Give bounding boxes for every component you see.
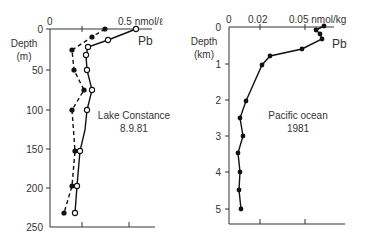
- element-label: Pb: [332, 37, 347, 51]
- chart-date: 1981: [287, 123, 310, 134]
- y-tick-0: 0: [215, 22, 221, 33]
- chart-date: 8.9.81: [120, 123, 148, 134]
- x-unit-label: 0.5 nmol/ℓ: [118, 16, 163, 27]
- y-tick-250: 250: [26, 222, 43, 233]
- y-tick-50: 50: [32, 65, 44, 76]
- x-tick-0: 0: [47, 16, 53, 27]
- x-tick-0: 0: [226, 14, 232, 25]
- chart-title: Lake Constance: [98, 110, 171, 121]
- depth-unit: (km): [194, 49, 214, 60]
- y-tick-5: 5: [215, 204, 221, 215]
- x-tick-002: 0.02: [248, 14, 268, 25]
- open-series-markers: [72, 26, 138, 215]
- depth-unit: (m): [17, 51, 32, 62]
- y-tick-4: 4: [215, 167, 221, 178]
- y-tick-2: 2: [215, 95, 221, 106]
- y-tick-150: 150: [26, 144, 43, 155]
- y-tick-0: 0: [37, 24, 43, 35]
- depth-label: Depth: [191, 36, 218, 47]
- y-tick-1: 1: [215, 59, 221, 70]
- y-tick-200: 200: [26, 183, 43, 194]
- y-tick-3: 3: [215, 131, 221, 142]
- figure: 0 0.5 nmol/ℓ 0 50 100 150 200 250 Depth …: [0, 0, 365, 240]
- lake-constance-chart: 0 0.5 nmol/ℓ 0 50 100 150 200 250 Depth …: [11, 16, 171, 233]
- depth-label: Depth: [11, 38, 38, 49]
- element-label: Pb: [138, 34, 153, 48]
- y-tick-100: 100: [26, 105, 43, 116]
- pacific-ocean-chart: 0 0.02 0.05 nmol/kg 0 1 2 3 4 5 Depth (k…: [191, 14, 347, 224]
- chart-title: Pacific ocean: [268, 110, 327, 121]
- x-unit-label: 0.05 nmol/kg: [289, 14, 346, 25]
